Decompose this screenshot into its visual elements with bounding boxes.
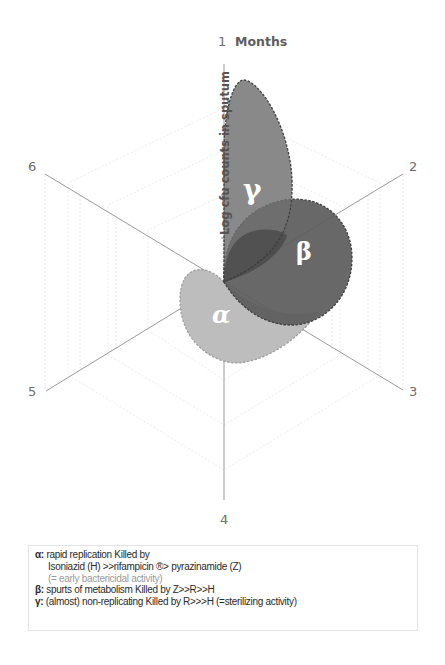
beta-label: β — [296, 237, 312, 266]
months-label: Months — [235, 34, 287, 49]
legend-alpha-row: α: rapid replication Killed by — [35, 549, 417, 561]
legend-alpha-drugs: Isoniazid (H) >>rifampicin ®> pyrazinami… — [35, 561, 417, 573]
axis-label-4: 4 — [220, 512, 228, 527]
legend-beta-text: spurts of metabolism Killed by Z>>R>>H — [46, 584, 214, 595]
axis-label-5: 5 — [28, 384, 36, 399]
y-axis-label: Log cfu counts in sputum — [218, 71, 232, 235]
legend-gamma-text: (almost) non-replicating Killed by R>>>H… — [46, 596, 297, 607]
legend-beta-symbol: β: — [35, 584, 44, 595]
legend-gamma-symbol: γ: — [35, 596, 43, 607]
legend-box: α: rapid replication Killed by Isoniazid… — [28, 545, 418, 631]
alpha-label: α — [212, 300, 230, 329]
axis-label-2: 2 — [409, 159, 417, 174]
legend-alpha-text: rapid replication Killed by — [46, 549, 149, 560]
axis-label-1: 1 — [218, 34, 226, 49]
axis-label-6: 6 — [28, 159, 36, 174]
legend-beta-row: β: spurts of metabolism Killed by Z>>R>>… — [35, 584, 417, 596]
legend-alpha-note: (= early bactericidal activity) — [35, 573, 417, 585]
legend-gamma-row: γ: (almost) non-replicating Killed by R>… — [35, 596, 417, 608]
legend-alpha-symbol: α: — [35, 549, 44, 560]
axis-label-3: 3 — [409, 384, 417, 399]
gamma-label: γ — [243, 173, 261, 206]
